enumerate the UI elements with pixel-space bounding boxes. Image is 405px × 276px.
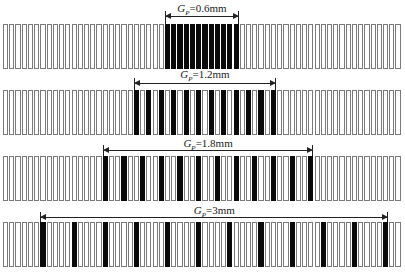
white-bar [90,24,95,69]
black-bar [271,90,276,135]
white-bar [109,24,114,69]
black-bar [290,156,295,201]
white-bar [283,90,288,135]
white-bar [265,24,270,69]
white-bar [315,24,320,69]
white-bar [277,90,282,135]
white-bar [65,24,70,69]
white-bar [84,24,89,69]
black-bar [321,222,326,267]
white-bar [395,24,400,69]
black-bar [196,90,201,135]
white-bar [339,156,344,201]
white-bar [15,24,20,69]
white-bar [153,24,158,69]
white-bar [153,90,158,135]
white-bar [128,24,133,69]
dimension-tick [40,212,41,222]
white-bar [140,222,145,267]
white-bar [171,156,176,201]
white-bar [221,156,226,201]
white-bar [146,24,151,69]
white-bar [352,90,357,135]
black-bar [103,156,108,201]
white-bar [121,24,126,69]
black-bar [202,24,207,69]
black-bar [234,24,239,69]
white-bar [59,156,64,201]
white-bar [47,90,52,135]
white-bar [277,222,282,267]
white-bar [302,156,307,201]
black-bar [171,90,176,135]
white-bar [209,156,214,201]
white-bar [352,156,357,201]
black-bar [134,90,139,135]
white-bar [40,24,45,69]
white-bar [59,222,64,267]
white-bar [321,90,326,135]
period-label: GP=1.8mm [183,137,232,152]
dimension-tick [165,11,166,24]
white-bar [327,90,332,135]
white-bar [65,222,70,267]
white-bar [22,222,27,267]
white-bar [302,90,307,135]
white-bar [103,90,108,135]
white-bar [202,90,207,135]
white-bar [364,24,369,69]
dimension-tick [387,212,388,222]
white-bar [258,156,263,201]
white-bar [128,90,133,135]
white-bar [283,222,288,267]
white-bar [15,90,20,135]
white-bar [258,24,263,69]
white-bar [339,24,344,69]
black-bar [209,24,214,69]
black-bar [234,90,239,135]
black-bar [252,156,257,201]
black-bar [227,24,232,69]
white-bar [78,24,83,69]
white-bar [271,24,276,69]
black-bar [196,222,201,267]
white-bar [22,24,27,69]
black-bar [215,156,220,201]
white-bar [346,222,351,267]
white-bar [252,24,257,69]
white-bar [9,90,14,135]
black-bar [134,222,139,267]
white-bar [277,24,282,69]
white-bar [9,156,14,201]
white-bar [134,24,139,69]
white-bar [240,156,245,201]
white-bar [140,90,145,135]
white-bar [252,222,257,267]
white-bar [389,24,394,69]
white-bar [153,156,158,201]
white-bar [209,222,214,267]
white-bar [358,156,363,201]
white-bar [96,90,101,135]
white-bar [371,156,376,201]
white-bar [72,24,77,69]
white-bar [327,156,332,201]
black-bar [221,24,226,69]
dimension-tick [312,145,313,156]
white-bar [128,222,133,267]
white-bar [3,156,8,201]
white-bar [371,24,376,69]
white-bar [346,24,351,69]
white-bar [28,222,33,267]
white-bar [383,24,388,69]
white-bar [34,90,39,135]
white-bar [321,156,326,201]
white-bar [96,156,101,201]
white-bar [84,90,89,135]
white-bar [346,156,351,201]
white-bar [47,24,52,69]
white-bar [321,24,326,69]
white-bar [146,156,151,201]
white-bar [265,222,270,267]
white-bar [371,222,376,267]
